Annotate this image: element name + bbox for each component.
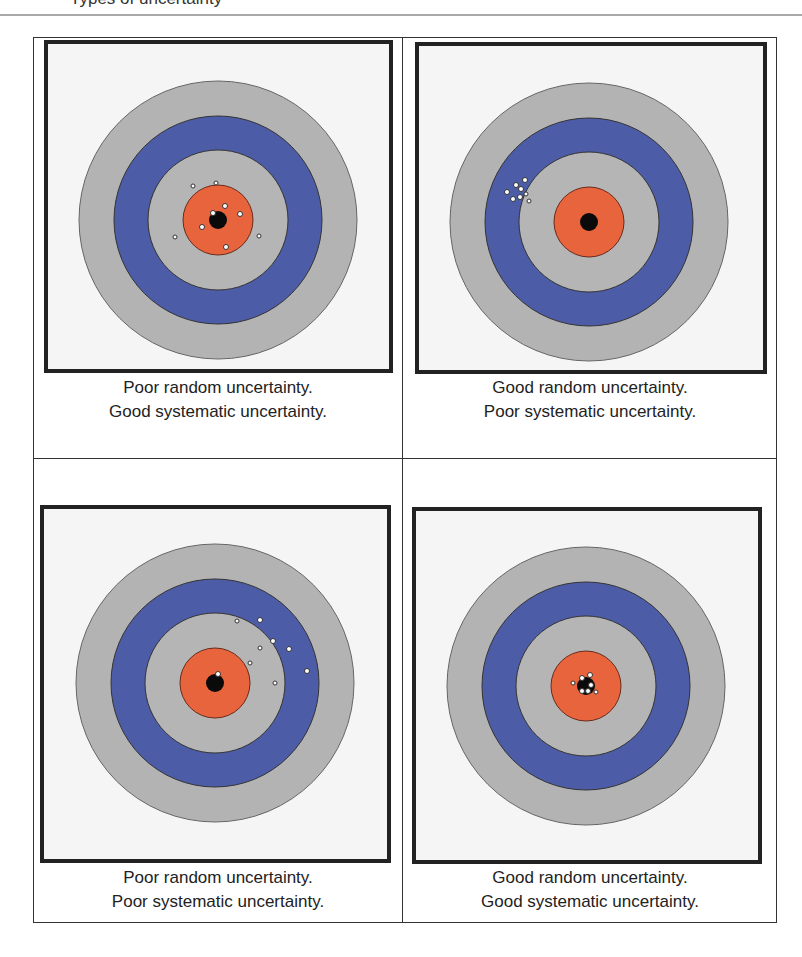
row-divider [33,458,777,459]
header-title: Types of uncertainty [70,0,222,9]
header-divider [0,14,802,16]
target-icon [416,511,758,860]
target-frame-top-right [415,42,767,374]
target-frame-bottom-left [40,505,391,863]
target-frame-bottom-right [412,507,762,864]
caption-systematic: Good systematic uncertainty. [34,400,402,424]
caption-random: Good random uncertainty. [403,376,777,400]
caption-bottom-right: Good random uncertainty. Good systematic… [403,866,777,914]
caption-systematic: Poor systematic uncertainty. [34,890,402,914]
target-icon [419,46,763,370]
target-frame-top-left [44,40,393,373]
target-icon [44,509,387,859]
caption-random: Good random uncertainty. [403,866,777,890]
caption-random: Poor random uncertainty. [34,376,402,400]
target-icon [48,44,389,369]
caption-random: Poor random uncertainty. [34,866,402,890]
caption-top-left: Poor random uncertainty. Good systematic… [34,376,402,424]
column-divider [402,37,403,923]
caption-systematic: Poor systematic uncertainty. [403,400,777,424]
caption-bottom-left: Poor random uncertainty. Poor systematic… [34,866,402,914]
caption-systematic: Good systematic uncertainty. [403,890,777,914]
caption-top-right: Good random uncertainty. Poor systematic… [403,376,777,424]
